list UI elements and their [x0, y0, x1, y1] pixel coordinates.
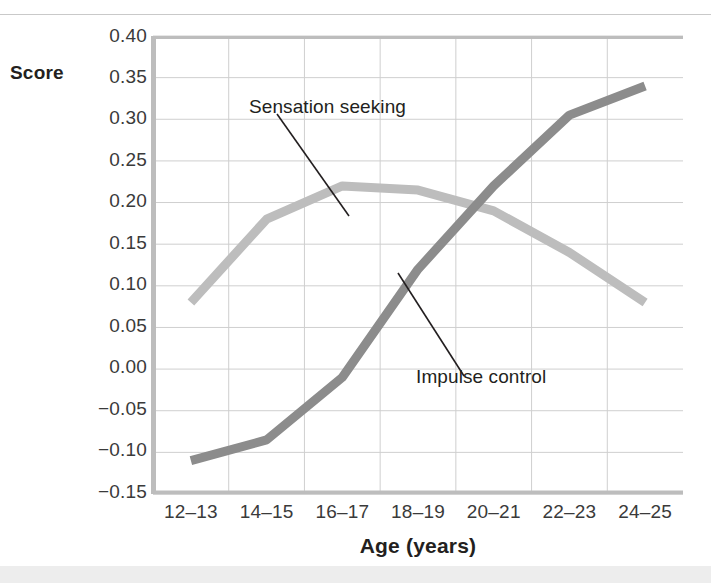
x-tick-label: 16–17: [304, 501, 380, 527]
x-tick-label: 14–15: [229, 501, 305, 527]
x-tick-label: 18–19: [380, 501, 456, 527]
line-chart: Score 0.40 0.35 0.30 0.25 0.20 0.15 0.10…: [0, 0, 711, 566]
annotation-sensation-seeking: Sensation seeking: [249, 96, 406, 118]
y-tick-label: 0.20: [85, 191, 147, 210]
y-tick-label: −0.10: [85, 440, 147, 459]
y-tick-label: 0.30: [85, 108, 147, 127]
y-axis-title: Score: [10, 62, 64, 84]
y-axis-tick-labels: 0.40 0.35 0.30 0.25 0.20 0.15 0.10 0.05 …: [79, 36, 147, 494]
y-tick-label: 0.05: [85, 316, 147, 335]
y-tick-label: 0.00: [85, 357, 147, 376]
annotation-impulse-control: Impulse control: [416, 366, 546, 388]
y-tick-label: 0.10: [85, 274, 147, 293]
x-tick-label: 22–23: [532, 501, 608, 527]
x-tick-label: 20–21: [456, 501, 532, 527]
plot-area: Sensation seeking Impulse control: [153, 36, 683, 494]
y-tick-label: −0.05: [85, 399, 147, 418]
leader-line-sensation-seeking: [277, 114, 349, 216]
y-tick-label: 0.15: [85, 233, 147, 252]
y-tick-label: 0.25: [85, 150, 147, 169]
y-tick-label: −0.15: [85, 482, 147, 501]
x-axis-tick-labels: 12–13 14–15 16–17 18–19 20–21 22–23 24–2…: [153, 501, 683, 527]
x-tick-label: 12–13: [153, 501, 229, 527]
y-tick-label: 0.40: [85, 26, 147, 45]
page-bottom-band: [0, 566, 711, 583]
y-tick-label: 0.35: [85, 67, 147, 86]
leader-line-impulse-control: [398, 273, 464, 376]
x-axis-title: Age (years): [153, 534, 683, 558]
x-tick-label: 24–25: [607, 501, 683, 527]
annotation-leader-lines: [153, 36, 683, 494]
figure-page: Score 0.40 0.35 0.30 0.25 0.20 0.15 0.10…: [0, 0, 711, 583]
